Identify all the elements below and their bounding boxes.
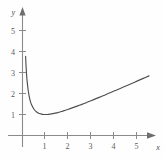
- plot-area: 1 2 3 4 5 1 2 3 4 5 y x: [0, 0, 165, 159]
- y-axis-label: y: [10, 8, 15, 17]
- y-tick-label-3: 3: [11, 69, 15, 78]
- x-tick-label-1: 1: [43, 142, 47, 151]
- y-tick-label-2: 2: [11, 90, 15, 99]
- arrow-up-icon: [19, 7, 25, 16]
- x-tick-label-2: 2: [66, 142, 70, 151]
- function-curve: [26, 56, 149, 114]
- x-tick-label-5: 5: [135, 142, 139, 151]
- y-tick-label-4: 4: [11, 48, 15, 57]
- arrow-right-icon: [147, 132, 156, 138]
- x-tick-label-4: 4: [112, 142, 116, 151]
- x-tick-label-3: 3: [89, 142, 93, 151]
- chart-figure: 1 2 3 4 5 1 2 3 4 5 y x: [0, 0, 165, 159]
- x-axis-label: x: [155, 143, 160, 152]
- y-tick-label-5: 5: [11, 27, 15, 36]
- y-tick-label-1: 1: [11, 111, 15, 120]
